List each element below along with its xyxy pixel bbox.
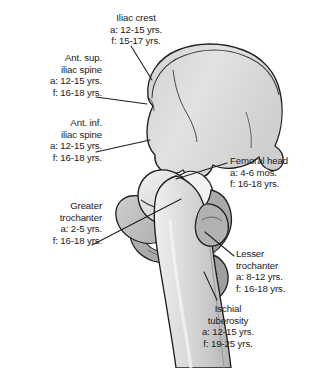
label-greater-trochanter-appearance: a: 2-5 yrs. [6, 223, 102, 235]
label-lesser-trochanter: Lesser trochanter a: 8-12 yrs. f: 16-18 … [236, 248, 308, 294]
label-greater-trochanter-name-1: Greater [6, 200, 102, 212]
label-lesser-trochanter-name-2: trochanter [236, 260, 308, 272]
label-femoral-head-appearance: a: 4-6 mos. [230, 167, 308, 179]
label-femoral-head: Femoral head a: 4-6 mos. f: 16-18 yrs. [230, 155, 308, 190]
label-iliac-crest-fusion: f: 15-17 yrs. [84, 35, 188, 47]
label-femoral-head-fusion: f: 16-18 yrs. [230, 178, 308, 190]
label-ischial-tuberosity-fusion: f: 19-25 yrs. [188, 338, 268, 350]
label-ant-inf-iliac-spine-name-2: iliac spine [10, 129, 102, 141]
label-iliac-crest-name: Iliac crest [84, 12, 188, 24]
label-ant-sup-iliac-spine-name-1: Ant. sup. [10, 52, 102, 64]
label-ant-inf-iliac-spine-appearance: a: 12-15 yrs. [10, 140, 102, 152]
label-greater-trochanter: Greater trochanter a: 2-5 yrs. f: 16-18 … [6, 200, 102, 246]
label-greater-trochanter-name-2: trochanter [6, 212, 102, 224]
label-greater-trochanter-fusion: f: 16-18 yrs. [6, 235, 102, 247]
label-ant-inf-iliac-spine-name-1: Ant. inf. [10, 117, 102, 129]
leader-iliac-crest [131, 46, 152, 80]
label-ischial-tuberosity-name-1: Ischial [188, 303, 268, 315]
label-ischial-tuberosity: Ischial tuberosity a: 12-15 yrs. f: 19-2… [188, 303, 268, 349]
label-femoral-head-name: Femoral head [230, 155, 308, 167]
label-ant-sup-iliac-spine-fusion: f: 16-18 yrs. [10, 87, 102, 99]
leader-ant-sup-iliac-spine [96, 97, 147, 104]
label-iliac-crest-appearance: a: 12-15 yrs. [84, 24, 188, 36]
label-ant-inf-iliac-spine: Ant. inf. iliac spine a: 12-15 yrs. f: 1… [10, 117, 102, 163]
leader-ant-inf-iliac-spine [96, 140, 150, 152]
label-lesser-trochanter-fusion: f: 16-18 yrs. [236, 283, 308, 295]
label-ischial-tuberosity-appearance: a: 12-15 yrs. [188, 326, 268, 338]
label-ischial-tuberosity-name-2: tuberosity [188, 315, 268, 327]
label-ant-sup-iliac-spine: Ant. sup. iliac spine a: 12-15 yrs. f: 1… [10, 52, 102, 98]
label-lesser-trochanter-name-1: Lesser [236, 248, 308, 260]
label-iliac-crest: Iliac crest a: 12-15 yrs. f: 15-17 yrs. [84, 12, 188, 47]
label-ant-inf-iliac-spine-fusion: f: 16-18 yrs. [10, 152, 102, 164]
label-ant-sup-iliac-spine-name-2: iliac spine [10, 64, 102, 76]
label-ant-sup-iliac-spine-appearance: a: 12-15 yrs. [10, 75, 102, 87]
label-lesser-trochanter-appearance: a: 8-12 yrs. [236, 271, 308, 283]
